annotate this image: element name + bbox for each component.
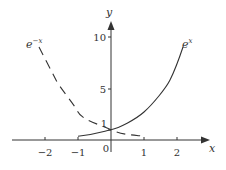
exp-curve-label: ex [182, 37, 193, 51]
x-tick-label: −2 [38, 147, 53, 158]
y-tick-label: 5 [100, 84, 106, 95]
y-axis-label: y [105, 6, 113, 19]
y-axis-arrow-icon [108, 21, 115, 30]
x-axis-label: x [209, 142, 216, 155]
origin-label: 0 [103, 143, 109, 154]
x-tick-label: 2 [174, 147, 180, 158]
exponential-chart: −2 −1 0 1 2 10 5 1 x y ex e−x [0, 0, 226, 170]
y-tick-label: 10 [93, 32, 106, 43]
x-tick-label: 1 [141, 147, 147, 158]
x-tick-label: −1 [71, 147, 86, 158]
